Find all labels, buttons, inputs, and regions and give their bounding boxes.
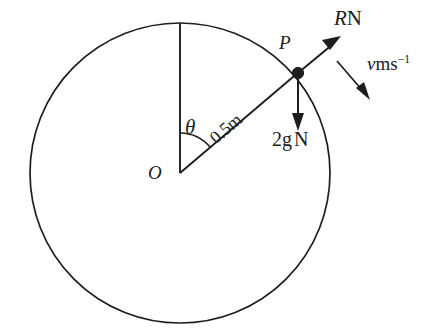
diagram-canvas [0, 0, 444, 336]
reaction-symbol: R [334, 6, 347, 30]
reaction-force-arrow-shaft [298, 44, 333, 73]
weight-value: 2g [272, 128, 292, 150]
velocity-exponent: −1 [398, 53, 411, 66]
label-angle-theta: θ [185, 117, 195, 138]
reaction-force-arrowhead [322, 36, 341, 50]
physics-diagram: O P θ 0.5m RN 2gN vms−1 [0, 0, 444, 336]
label-velocity: vms−1 [367, 54, 410, 73]
label-reaction-force: RN [334, 8, 362, 29]
label-point-p: P [279, 33, 291, 52]
particle-dot [292, 67, 303, 78]
label-weight-force: 2gN [272, 129, 308, 149]
velocity-unit: ms [375, 53, 397, 74]
reaction-unit: N [347, 6, 362, 30]
weight-unit: N [294, 128, 308, 150]
velocity-arrow-shaft [337, 61, 362, 90]
label-centre-o: O [148, 163, 162, 182]
